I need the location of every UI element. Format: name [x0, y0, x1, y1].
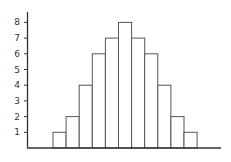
y-tick-label: 8 [14, 17, 20, 27]
bar [171, 117, 184, 148]
bar [132, 38, 145, 148]
bar [92, 54, 105, 148]
y-tick-label: 1 [14, 127, 20, 137]
y-tick-label: 7 [14, 33, 20, 43]
bar [105, 38, 118, 148]
y-tick-label: 5 [14, 65, 20, 75]
bar [119, 22, 132, 148]
bar [184, 132, 197, 148]
bar [145, 54, 158, 148]
y-tick-label: 6 [14, 49, 20, 59]
histogram-chart: 12345678 [0, 0, 231, 162]
bar [66, 117, 79, 148]
bar [53, 132, 66, 148]
y-tick-label: 2 [14, 112, 20, 122]
bars [53, 22, 197, 148]
bar [158, 85, 171, 148]
y-ticks: 12345678 [14, 17, 28, 137]
y-tick-label: 3 [14, 96, 20, 106]
bar [79, 85, 92, 148]
y-tick-label: 4 [14, 80, 20, 90]
